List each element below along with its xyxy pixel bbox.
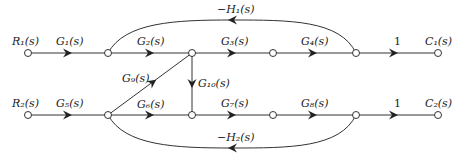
label-c1: C₁(s) [425,35,452,48]
label-g5: G₅(s) [56,97,83,110]
label-g6: G₆(s) [137,98,164,111]
node-top-2 [189,50,196,57]
node-c2 [435,112,442,119]
label-g8: G₈(s) [301,97,328,110]
label-g4: G₄(s) [301,35,328,48]
label-unity-bottom: 1 [394,97,401,110]
label-c2: C₂(s) [425,97,452,110]
node-bottom-1 [105,112,112,119]
node-bottom-2 [189,112,196,119]
label-g7: G₇(s) [221,97,248,110]
node-top-3 [270,50,277,57]
label-g1: G₁(s) [56,35,83,48]
node-c1 [435,50,442,57]
label-g9: G₉(s) [122,72,149,85]
node-r2 [25,112,32,119]
label-r1: R₁(s) [11,35,39,48]
label-h2: −H₂(s) [217,131,254,144]
signal-flow-graph: R₁(s) G₁(s) G₂(s) G₃(s) G₄(s) 1 C₁(s) −H… [0,0,470,164]
node-r1 [25,50,32,57]
node-top-1 [105,50,112,57]
label-g10: G₁₀(s) [198,77,230,90]
label-g2: G₂(s) [137,35,164,48]
label-r2: R₂(s) [11,97,39,110]
node-top-4 [353,50,360,57]
node-bottom-3 [270,112,277,119]
label-h1: −H₁(s) [217,3,254,16]
label-g3: G₃(s) [221,35,248,48]
node-bottom-4 [353,112,360,119]
label-unity-top: 1 [394,35,401,48]
